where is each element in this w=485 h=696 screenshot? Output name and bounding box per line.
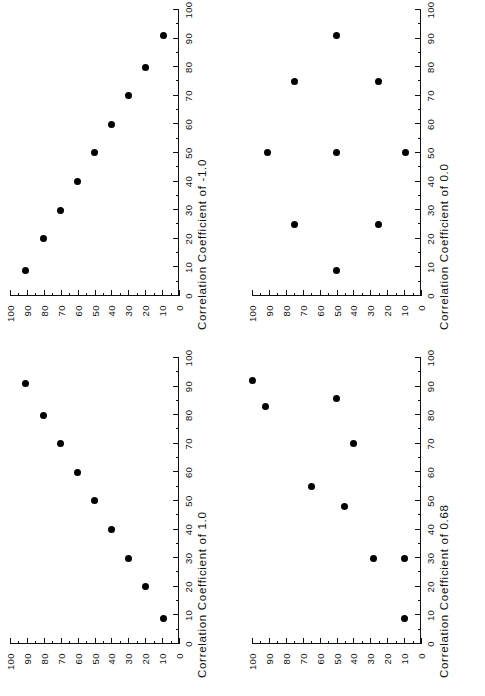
data-point bbox=[333, 150, 340, 157]
x-axis-tick-label: 60 bbox=[425, 119, 436, 130]
x-axis-tick bbox=[415, 529, 421, 530]
x-axis-tick bbox=[418, 109, 421, 110]
y-axis-tick-label: 80 bbox=[38, 653, 49, 664]
y-axis-tick-label: 40 bbox=[348, 653, 359, 664]
x-axis-tick bbox=[415, 123, 421, 124]
data-point bbox=[291, 221, 298, 228]
y-axis-tick-label: 10 bbox=[399, 653, 410, 664]
y-axis-tick bbox=[260, 641, 261, 644]
panel-title: Correlation Coefficient of -1.0 bbox=[196, 159, 208, 330]
data-point bbox=[370, 555, 377, 562]
panel-title: Correlation Coefficient of 0.68 bbox=[438, 504, 450, 678]
data-point bbox=[341, 503, 348, 510]
y-axis-tick bbox=[128, 638, 129, 644]
x-axis-tick bbox=[173, 557, 179, 558]
y-axis-tick-label: 30 bbox=[365, 653, 376, 664]
x-axis-tick-label: 60 bbox=[183, 467, 194, 478]
x-axis-tick bbox=[418, 543, 421, 544]
data-point bbox=[333, 267, 340, 274]
x-axis-tick-label: 100 bbox=[183, 1, 194, 18]
panel-correlation-1: 0010102020303040405050606070708080909010… bbox=[0, 348, 242, 696]
y-axis-tick bbox=[269, 638, 270, 644]
y-axis-tick bbox=[337, 290, 338, 296]
y-axis-tick bbox=[387, 638, 388, 644]
x-axis-tick bbox=[418, 23, 421, 24]
x-axis-tick bbox=[418, 252, 421, 253]
x-axis-tick bbox=[418, 224, 421, 225]
x-axis-tick bbox=[418, 572, 421, 573]
y-axis-tick bbox=[18, 641, 19, 644]
y-axis-tick-label: 50 bbox=[331, 305, 342, 316]
x-axis-tick bbox=[418, 371, 421, 372]
x-axis-tick-label: 90 bbox=[183, 33, 194, 44]
y-axis-tick bbox=[78, 290, 79, 296]
data-point bbox=[125, 555, 132, 562]
data-point bbox=[74, 178, 81, 185]
y-axis-tick bbox=[137, 641, 138, 644]
y-axis-tick-label: 80 bbox=[280, 653, 291, 664]
data-point bbox=[40, 412, 47, 419]
x-axis-tick bbox=[418, 429, 421, 430]
x-axis-tick bbox=[173, 529, 179, 530]
y-axis-tick-label: 40 bbox=[106, 653, 117, 664]
x-axis-tick bbox=[173, 357, 179, 358]
panel-title: Correlation Coefficient of 1.0 bbox=[196, 511, 208, 678]
y-axis-tick bbox=[27, 638, 28, 644]
x-axis-tick bbox=[173, 586, 179, 587]
data-point bbox=[91, 498, 98, 505]
x-axis-tick bbox=[415, 95, 421, 96]
y-axis-tick bbox=[137, 293, 138, 296]
x-axis-tick-label: 10 bbox=[183, 262, 194, 273]
panel-correlation-068: 0010102020303040405050606070708080909010… bbox=[242, 348, 484, 696]
data-point bbox=[108, 121, 115, 128]
y-axis-tick bbox=[120, 641, 121, 644]
x-axis-tick-label: 70 bbox=[425, 438, 436, 449]
x-axis-tick bbox=[176, 281, 179, 282]
x-axis-tick bbox=[176, 109, 179, 110]
x-axis-tick-label: 20 bbox=[425, 233, 436, 244]
x-axis-tick-label: 0 bbox=[183, 293, 194, 299]
y-axis-tick bbox=[353, 638, 354, 644]
x-axis-tick bbox=[176, 252, 179, 253]
x-axis-tick-label: 30 bbox=[183, 205, 194, 216]
x-axis-tick bbox=[415, 209, 421, 210]
y-axis-tick-label: 60 bbox=[314, 653, 325, 664]
x-axis-tick-label: 20 bbox=[425, 581, 436, 592]
y-axis-tick bbox=[370, 290, 371, 296]
x-axis-tick bbox=[176, 166, 179, 167]
y-axis-tick bbox=[10, 638, 11, 644]
x-axis-tick bbox=[176, 486, 179, 487]
y-axis-tick bbox=[78, 638, 79, 644]
x-axis-tick-label: 0 bbox=[425, 293, 436, 299]
y-axis-tick-label: 0 bbox=[416, 653, 427, 659]
y-axis-tick-label: 30 bbox=[123, 653, 134, 664]
x-axis-tick-label: 100 bbox=[425, 1, 436, 18]
y-axis-tick-label: 30 bbox=[365, 305, 376, 316]
data-point bbox=[160, 615, 167, 622]
y-axis-tick-label: 10 bbox=[157, 305, 168, 316]
x-axis-tick-label: 70 bbox=[183, 90, 194, 101]
x-axis-tick-label: 40 bbox=[425, 176, 436, 187]
x-axis-tick bbox=[173, 471, 179, 472]
y-axis-tick bbox=[328, 641, 329, 644]
y-axis-tick bbox=[286, 638, 287, 644]
x-axis-tick-label: 70 bbox=[425, 90, 436, 101]
y-axis-tick bbox=[171, 641, 172, 644]
x-axis-tick-label: 40 bbox=[425, 524, 436, 535]
x-axis-tick bbox=[418, 486, 421, 487]
y-axis-tick bbox=[111, 638, 112, 644]
x-axis-tick-label: 40 bbox=[183, 176, 194, 187]
data-point bbox=[142, 64, 149, 71]
y-axis-tick bbox=[171, 293, 172, 296]
x-axis-tick-label: 10 bbox=[425, 262, 436, 273]
x-axis-tick bbox=[418, 52, 421, 53]
x-axis-tick-label: 20 bbox=[183, 581, 194, 592]
y-axis-tick-label: 70 bbox=[297, 653, 308, 664]
x-axis-tick-label: 0 bbox=[183, 641, 194, 647]
y-axis-tick bbox=[277, 641, 278, 644]
x-axis-tick bbox=[176, 81, 179, 82]
x-axis-tick bbox=[418, 166, 421, 167]
data-point bbox=[333, 395, 340, 402]
y-axis-tick-label: 0 bbox=[174, 305, 185, 311]
x-axis-tick bbox=[173, 266, 179, 267]
